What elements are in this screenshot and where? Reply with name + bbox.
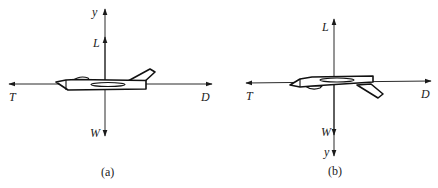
aircraft-icon-inverted	[290, 76, 383, 98]
caption-a: (a)	[101, 165, 114, 179]
panel-b: L T D W y (b)	[246, 19, 431, 178]
label-weight-a: W	[90, 126, 101, 140]
label-y-b: y	[323, 145, 330, 159]
label-lift-b: L	[321, 20, 329, 34]
caption-b: (b)	[328, 164, 342, 178]
label-thrust-b: T	[246, 89, 254, 103]
label-lift-a: L	[92, 36, 100, 50]
free-body-diagrams: y L T D W (a) L T D W	[0, 0, 438, 188]
panel-a: y L T D W (a)	[9, 5, 212, 179]
label-y-a: y	[91, 5, 98, 19]
label-thrust-a: T	[9, 90, 17, 104]
label-drag-b: D	[420, 87, 430, 101]
label-drag-a: D	[200, 90, 210, 104]
label-weight-b: W	[321, 125, 332, 139]
